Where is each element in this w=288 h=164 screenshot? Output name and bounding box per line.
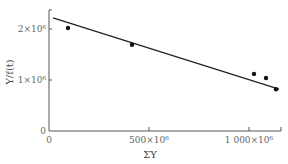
data-point xyxy=(130,43,134,47)
data-point xyxy=(264,76,268,80)
y-ticks: 01×10⁶2×10⁶ xyxy=(18,24,52,136)
data-point xyxy=(274,87,278,91)
y-tick-label: 0 xyxy=(40,126,46,136)
data-point xyxy=(66,26,70,30)
x-tick-label: 1 000×10⁶ xyxy=(225,135,274,145)
y-tick-label: 2×10⁶ xyxy=(18,24,47,34)
x-tick-label: 0 xyxy=(46,135,52,145)
data-point xyxy=(252,72,256,76)
x-tick-label: 500×10⁶ xyxy=(129,135,169,145)
y-tick-label: 1×10⁶ xyxy=(18,75,47,85)
fit-line xyxy=(53,18,279,89)
x-ticks: 0500×10⁶1 000×10⁶ xyxy=(46,127,273,145)
regression-line xyxy=(53,18,279,89)
data-points xyxy=(66,26,278,92)
y-axis-label: Y/f(t) xyxy=(4,59,15,86)
scatter-chart: 0500×10⁶1 000×10⁶ 01×10⁶2×10⁶ ΣY Y/f(t) xyxy=(0,0,288,164)
x-axis-label: ΣY xyxy=(143,149,157,160)
